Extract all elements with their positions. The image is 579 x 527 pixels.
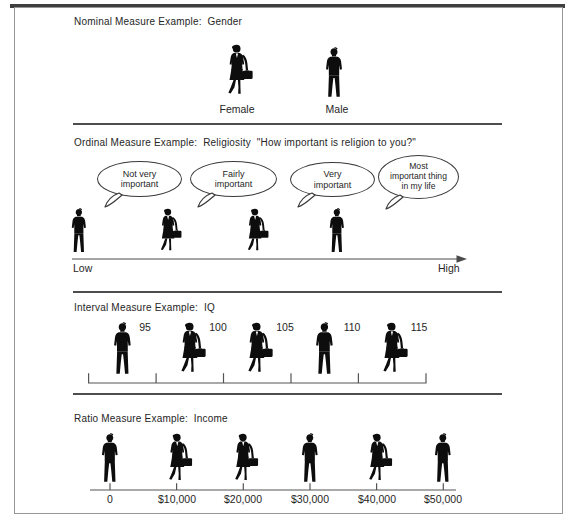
section-divider bbox=[73, 123, 502, 125]
income-value-label: $10,000 bbox=[147, 493, 207, 505]
income-value-label: $20,000 bbox=[213, 493, 273, 505]
income-value-label: 0 bbox=[80, 493, 140, 505]
female-silhouette-icon bbox=[225, 44, 253, 97]
male-silhouette-icon bbox=[70, 208, 88, 253]
iq-value-label: 110 bbox=[332, 321, 372, 333]
income-value-label: $50,000 bbox=[413, 493, 473, 505]
bubble-text-line: Not very bbox=[123, 169, 157, 180]
female-label: Female bbox=[207, 103, 267, 115]
bubble-text-line: Fairly bbox=[223, 169, 245, 180]
measurement-levels-figure: Nominal Measure Example: Gender Female M… bbox=[0, 0, 579, 527]
male-silhouette-icon bbox=[324, 47, 344, 98]
interval-scale-ruler bbox=[88, 372, 427, 384]
low-high-axis-arrow bbox=[70, 252, 470, 266]
bubble-text-line: important bbox=[121, 179, 159, 190]
axis-low-label: Low bbox=[73, 262, 92, 274]
iq-value-label: 100 bbox=[198, 321, 238, 333]
female-silhouette-icon bbox=[166, 433, 193, 483]
female-silhouette-icon bbox=[245, 208, 269, 253]
income-scale-ruler bbox=[90, 481, 458, 491]
speech-bubble-tail-icon bbox=[296, 192, 318, 208]
speech-bubble-tail-icon bbox=[384, 194, 406, 210]
income-value-label: $30,000 bbox=[280, 493, 340, 505]
section-divider bbox=[73, 393, 502, 395]
male-silhouette-icon bbox=[100, 433, 120, 483]
speech-bubble-tail-icon bbox=[196, 192, 218, 208]
interval-section-title: Interval Measure Example: IQ bbox=[74, 302, 215, 313]
bubble-text-line: important bbox=[215, 179, 253, 190]
female-silhouette-icon bbox=[158, 208, 182, 253]
bubble-text-line: Very bbox=[323, 169, 341, 180]
female-silhouette-icon bbox=[366, 433, 393, 483]
ordinal-section-title: Ordinal Measure Example: Religiosity "Ho… bbox=[74, 137, 416, 148]
male-silhouette-icon bbox=[328, 208, 346, 253]
male-silhouette-icon bbox=[300, 433, 320, 483]
nominal-section-title: Nominal Measure Example: Gender bbox=[74, 16, 242, 27]
female-silhouette-icon bbox=[232, 433, 259, 483]
section-divider bbox=[73, 291, 502, 293]
bubble-text-line: in my life bbox=[402, 182, 436, 192]
male-label: Male bbox=[307, 103, 367, 115]
speech-bubble: Most important thing in my life bbox=[378, 155, 459, 199]
iq-value-label: 105 bbox=[265, 321, 305, 333]
iq-value-label: 115 bbox=[399, 321, 439, 333]
speech-bubble-tail-icon bbox=[103, 192, 125, 208]
iq-value-label: 95 bbox=[125, 321, 165, 333]
income-value-label: $40,000 bbox=[347, 493, 407, 505]
axis-high-label: High bbox=[438, 262, 460, 274]
bubble-text-line: important bbox=[314, 180, 352, 191]
male-silhouette-icon bbox=[433, 433, 453, 483]
ratio-section-title: Ratio Measure Example: Income bbox=[74, 413, 228, 424]
